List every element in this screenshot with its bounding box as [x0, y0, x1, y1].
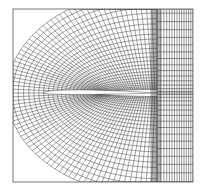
grid-lines: [13, 9, 193, 182]
mesh-canvas: [0, 0, 203, 192]
mesh-figure: C-grid computational mesh around an airf…: [0, 0, 203, 192]
airfoil-shape: [43, 90, 157, 95]
